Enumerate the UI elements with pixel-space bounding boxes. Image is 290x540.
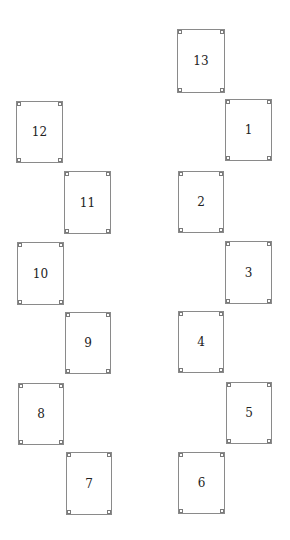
corner-marker: [226, 299, 230, 303]
box-4: 4: [178, 311, 224, 373]
corner-marker: [179, 453, 183, 457]
box-label: 2: [179, 196, 223, 208]
box-5: 5: [226, 382, 272, 444]
box-label: 13: [178, 55, 224, 67]
corner-marker: [267, 383, 271, 387]
corner-marker: [66, 313, 70, 317]
corner-marker: [179, 368, 183, 372]
corner-marker: [226, 156, 230, 160]
box-9: 9: [65, 312, 111, 374]
box-7: 7: [66, 452, 112, 515]
corner-marker: [19, 384, 23, 388]
corner-marker: [18, 243, 22, 247]
corner-marker: [67, 453, 71, 457]
corner-marker: [107, 453, 111, 457]
corner-marker: [220, 88, 224, 92]
corner-marker: [59, 384, 63, 388]
box-11: 11: [64, 171, 111, 234]
corner-marker: [17, 102, 21, 106]
corner-marker: [219, 172, 223, 176]
corner-marker: [106, 313, 110, 317]
corner-marker: [107, 510, 111, 514]
corner-marker: [59, 243, 63, 247]
corner-marker: [106, 172, 110, 176]
corner-marker: [226, 242, 230, 246]
corner-marker: [106, 229, 110, 233]
box-2: 2: [178, 171, 224, 233]
box-1: 1: [225, 99, 272, 161]
box-3: 3: [225, 241, 272, 304]
corner-marker: [219, 368, 223, 372]
box-label: 1: [226, 124, 271, 136]
corner-marker: [220, 453, 224, 457]
numbered-box-layout-diagram: 13 12 1 11 2 10: [0, 0, 290, 540]
corner-marker: [267, 242, 271, 246]
box-label: 6: [179, 477, 224, 489]
box-8: 8: [18, 383, 64, 445]
corner-marker: [219, 312, 223, 316]
corner-marker: [59, 440, 63, 444]
corner-marker: [59, 300, 63, 304]
box-label: 4: [179, 336, 223, 348]
corner-marker: [65, 229, 69, 233]
corner-marker: [178, 88, 182, 92]
corner-marker: [220, 30, 224, 34]
corner-marker: [179, 228, 183, 232]
corner-marker: [179, 172, 183, 176]
box-label: 5: [227, 407, 271, 419]
corner-marker: [178, 30, 182, 34]
corner-marker: [67, 510, 71, 514]
corner-marker: [267, 100, 271, 104]
corner-marker: [179, 312, 183, 316]
box-label: 12: [17, 126, 62, 138]
corner-marker: [66, 369, 70, 373]
corner-marker: [219, 228, 223, 232]
corner-marker: [267, 299, 271, 303]
box-12: 12: [16, 101, 63, 163]
corner-marker: [220, 509, 224, 513]
box-10: 10: [17, 242, 64, 305]
corner-marker: [267, 439, 271, 443]
corner-marker: [58, 102, 62, 106]
corner-marker: [58, 158, 62, 162]
corner-marker: [227, 439, 231, 443]
box-label: 7: [67, 478, 111, 490]
corner-marker: [227, 383, 231, 387]
corner-marker: [226, 100, 230, 104]
box-label: 11: [65, 197, 110, 209]
corner-marker: [65, 172, 69, 176]
box-6: 6: [178, 452, 225, 514]
box-label: 3: [226, 267, 271, 279]
box-13: 13: [177, 29, 225, 93]
box-label: 8: [19, 408, 63, 420]
corner-marker: [267, 156, 271, 160]
corner-marker: [18, 300, 22, 304]
corner-marker: [106, 369, 110, 373]
corner-marker: [179, 509, 183, 513]
box-label: 10: [18, 268, 63, 280]
corner-marker: [17, 158, 21, 162]
box-label: 9: [66, 337, 110, 349]
corner-marker: [19, 440, 23, 444]
